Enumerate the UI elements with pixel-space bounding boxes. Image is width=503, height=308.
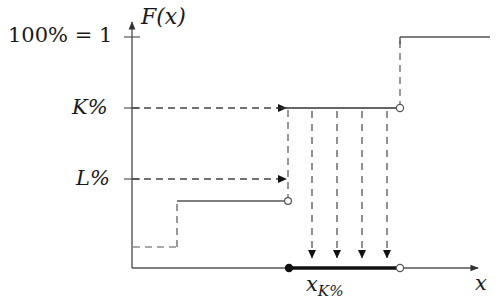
drop-arrows-group: [312, 111, 387, 258]
y-tick-label-l-percent: L%: [76, 168, 110, 189]
jump-risers-group: [177, 37, 400, 247]
l-symbol: L%: [76, 166, 110, 190]
quantile-point-label: xK%: [306, 274, 344, 299]
x-axis-label: x: [475, 273, 487, 294]
y-axis-label-text: F(x): [141, 4, 186, 29]
x-axis-label-text: x: [475, 271, 487, 295]
cdf-figure: 100% = 1 K% L% F(x) xK% x: [0, 0, 503, 308]
open-circle-low-step: [285, 198, 292, 205]
quantile-point-base: x: [306, 272, 318, 296]
step-function-group: [177, 37, 490, 201]
curve-endpoints-group: [285, 104, 404, 204]
interval-end-open-circle: [396, 264, 403, 271]
x-axis-interval-group: [285, 264, 404, 272]
k-symbol: K%: [72, 95, 108, 119]
y-tick-label-100-percent: 100% = 1: [8, 25, 112, 46]
quantile-point-subscript: K%: [318, 282, 344, 300]
open-circle-mid-step: [396, 104, 403, 111]
y-tick-label-k-percent: K%: [72, 97, 108, 118]
axes-group: [132, 22, 478, 268]
y-axis-label: F(x): [141, 6, 186, 28]
interval-start-filled-dot: [285, 264, 293, 272]
guide-lines-group: [132, 108, 286, 247]
